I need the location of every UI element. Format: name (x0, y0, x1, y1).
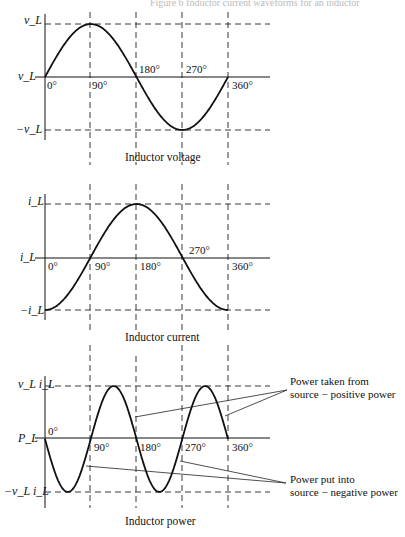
current-curve (45, 204, 228, 310)
y-label-top: v_L (24, 13, 42, 27)
tick-180: 180° (140, 441, 161, 453)
y-label-zero: P_L (17, 431, 38, 445)
tick-360: 360° (232, 260, 253, 272)
y-label-top: i_L (28, 194, 44, 208)
figure-title: Figure 6 Inductor current waveforms for … (150, 0, 360, 8)
caption-current: Inductor current (125, 331, 200, 343)
tick-180: 180° (139, 63, 160, 75)
tick-270: 270° (185, 441, 206, 453)
annotation-negative-line1: Power put into (290, 473, 355, 485)
tick-360: 360° (232, 441, 253, 453)
tick-90: 90° (92, 79, 107, 91)
caption-voltage: Inductor voltage (125, 151, 201, 164)
tick-0: 0° (48, 425, 58, 437)
tick-180: 180° (140, 260, 161, 272)
inductor-waveforms-figure: Figure 6 Inductor current waveforms for … (0, 0, 405, 537)
tick-270: 270° (189, 244, 210, 256)
tick-90: 90° (94, 441, 109, 453)
y-label-zero: v_L (18, 69, 36, 83)
tick-90: 90° (95, 260, 110, 272)
y-label-top: v_L i_L (18, 377, 55, 391)
y-label-bottom: −v_L (16, 122, 42, 136)
y-label-zero: i_L (20, 250, 36, 264)
panel-current: i_L i_L −i_L 0° 90° 180° 270° 360° Induc… (20, 184, 270, 343)
panel-voltage: v_L v_L −v_L 0° 90° 180° 270° 360° Induc… (16, 12, 270, 165)
y-label-bottom: −i_L (20, 303, 44, 317)
tick-270: 270° (186, 63, 207, 75)
y-label-bottom: −v_L i_L (4, 484, 49, 498)
annotation-positive-line2: source − positive power (290, 388, 396, 400)
panel-power: v_L i_L P_L −v_L i_L 0° 90° 180° 270° 36… (4, 345, 398, 528)
annotation-negative-line2: source − negative power (290, 486, 398, 498)
annotation-positive-line1: Power taken from (290, 375, 369, 387)
tick-360: 360° (232, 79, 253, 91)
caption-power: Inductor power (125, 515, 196, 528)
tick-0: 0° (47, 79, 57, 91)
tick-0: 0° (48, 260, 58, 272)
